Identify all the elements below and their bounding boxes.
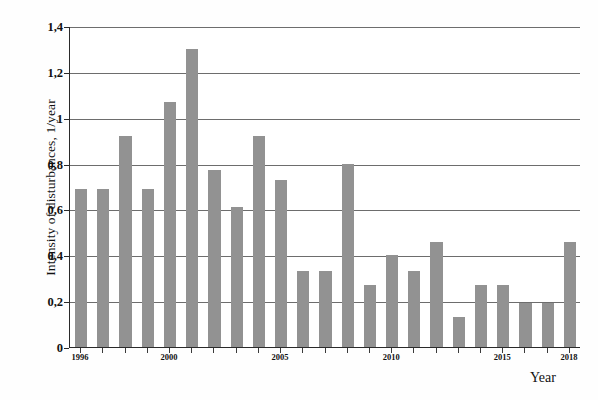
x-tick-mark: [347, 348, 348, 353]
x-tick-mark: [236, 348, 237, 353]
x-tick-label: 2015: [480, 352, 524, 362]
x-tick-mark: [102, 348, 103, 353]
x-axis-ticks: 199620002005201020152018: [0, 0, 598, 400]
x-tick-mark: [125, 348, 126, 353]
x-tick-mark: [191, 348, 192, 353]
bar-chart-figure: Intensity of disturbances, 1/year 00,20,…: [0, 0, 598, 400]
x-tick-mark: [436, 348, 437, 353]
x-tick-mark: [302, 348, 303, 353]
x-tick-label: 2000: [147, 352, 191, 362]
x-tick-label: 2018: [547, 352, 591, 362]
x-tick-label: 2005: [258, 352, 302, 362]
x-tick-mark: [413, 348, 414, 353]
x-tick-mark: [458, 348, 459, 353]
x-tick-mark: [524, 348, 525, 353]
x-tick-mark: [325, 348, 326, 353]
x-axis-title: Year: [508, 370, 578, 386]
x-tick-label: 2010: [369, 352, 413, 362]
x-tick-label: 1996: [58, 352, 102, 362]
x-tick-mark: [213, 348, 214, 353]
